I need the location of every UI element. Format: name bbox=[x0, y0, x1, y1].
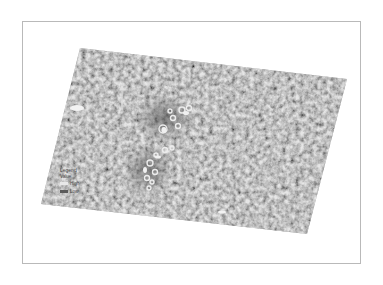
map-canvas: Legend Value High Low bbox=[0, 0, 383, 285]
bright-patch-west bbox=[70, 105, 84, 111]
bright-patch-south bbox=[218, 210, 226, 213]
dark-feature-cluster-north bbox=[135, 94, 195, 142]
satellite-raster bbox=[40, 45, 350, 237]
legend-item-low: Low bbox=[70, 189, 79, 194]
legend-swatch-low bbox=[60, 190, 68, 193]
legend-title: Legend bbox=[60, 167, 77, 173]
legend-subtitle: Value bbox=[60, 174, 72, 179]
legend-item-high: High bbox=[70, 181, 80, 186]
legend-swatch-high bbox=[60, 182, 68, 185]
